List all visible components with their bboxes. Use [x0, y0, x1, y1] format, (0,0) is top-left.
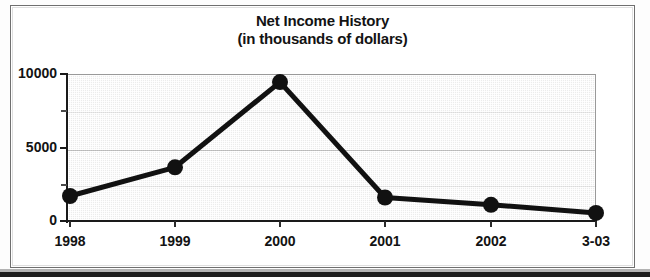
x-tick-2000 — [279, 221, 281, 227]
y-axis-label-10000: 10000 — [0, 65, 57, 81]
gridline-2500 — [68, 186, 595, 187]
x-axis-label-2001: 2001 — [369, 233, 400, 249]
y-tick-0 — [60, 220, 67, 222]
y-tick-2500 — [61, 184, 67, 186]
plot-area — [67, 74, 596, 221]
chart-page: Net Income History (in thousands of doll… — [0, 0, 650, 280]
x-axis-label-1998: 1998 — [54, 233, 85, 249]
y-tick-5000 — [60, 147, 67, 149]
x-tick-2001 — [384, 221, 386, 227]
x-axis-label-2000: 2000 — [264, 233, 295, 249]
x-axis — [66, 220, 597, 222]
x-tick-1999 — [174, 221, 176, 227]
x-tick-3-03 — [595, 221, 597, 227]
x-axis-label-1999: 1999 — [159, 233, 190, 249]
chart-subtitle: (in thousands of dollars) — [10, 30, 635, 48]
y-axis-label-5000: 5000 — [0, 139, 57, 155]
chart-title-block: Net Income History (in thousands of doll… — [10, 12, 635, 48]
page-title: Net Income History — [10, 12, 635, 30]
y-tick-10000 — [60, 73, 67, 75]
scan-edge-bar — [0, 272, 650, 277]
x-axis-label-3-03: 3-03 — [582, 233, 610, 249]
x-tick-1998 — [69, 221, 71, 227]
y-tick-7500 — [61, 110, 67, 112]
gridline-7500 — [68, 112, 595, 113]
y-axis-label-0: 0 — [0, 212, 57, 228]
x-tick-2002 — [490, 221, 492, 227]
gridline-5000 — [68, 150, 595, 151]
x-axis-label-2002: 2002 — [475, 233, 506, 249]
